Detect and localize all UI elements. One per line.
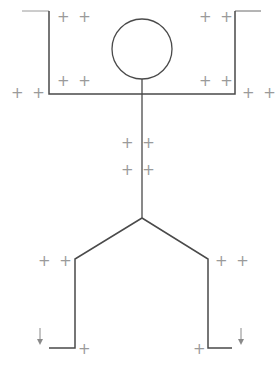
- arrow-down-icon-left: [37, 328, 43, 345]
- stick-figure-diagram: [0, 0, 279, 371]
- marker-foot-right: +: [193, 342, 208, 357]
- marker-foot-left: +: [78, 342, 93, 357]
- head-circle: [112, 19, 172, 79]
- arrow-down-icon-right: [238, 328, 244, 345]
- marker-top-right-upper: + +: [199, 10, 235, 25]
- marker-knee-left: + +: [38, 254, 74, 269]
- marker-torso-lower: + +: [121, 163, 157, 178]
- marker-outer-right: + +: [242, 86, 278, 101]
- marker-outer-left: + +: [11, 86, 47, 101]
- marker-knee-right: + +: [215, 254, 251, 269]
- right-leg: [142, 218, 232, 348]
- marker-top-right-lower: + +: [199, 74, 235, 89]
- marker-top-left-lower: + +: [57, 74, 93, 89]
- marker-torso-upper: + +: [121, 136, 157, 151]
- left-leg: [49, 218, 142, 348]
- marker-top-left-upper: + +: [57, 10, 93, 25]
